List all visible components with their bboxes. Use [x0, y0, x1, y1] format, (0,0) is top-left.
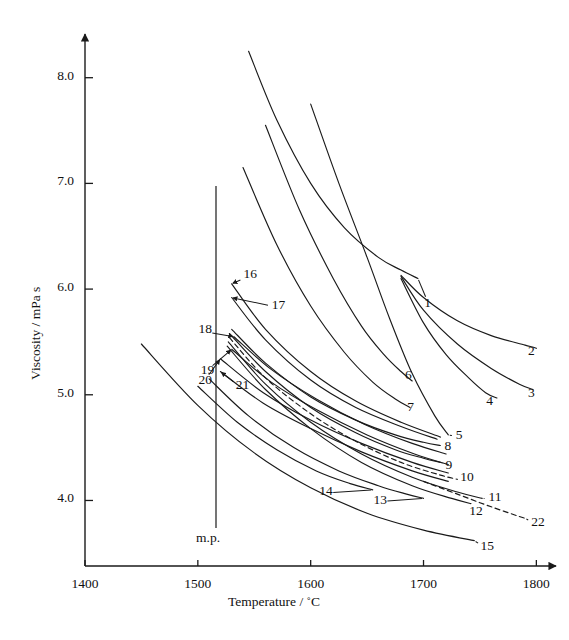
x-tick-label: 1600: [283, 576, 339, 592]
leader-17: [233, 298, 268, 305]
curve-label-13: 13: [373, 492, 387, 508]
leader-13: [387, 499, 422, 501]
curve-7: [243, 168, 410, 408]
curve-label-6: 6: [405, 367, 412, 383]
curve-label-1: 1: [424, 295, 431, 311]
curve-label-22: 22: [531, 514, 545, 530]
leader-15: [476, 542, 479, 544]
x-tick-label: 1700: [396, 576, 452, 592]
curve-label-17: 17: [272, 297, 286, 313]
curve-3: [401, 276, 533, 389]
curve-label-21: 21: [236, 377, 250, 393]
data-curves: [141, 51, 536, 540]
leader-22: [526, 519, 528, 520]
curve-6: [266, 125, 413, 381]
curve-19: [232, 349, 449, 464]
curve-label-9: 9: [446, 457, 453, 473]
curve-label-7: 7: [407, 399, 414, 415]
curve-label-11: 11: [488, 489, 501, 505]
curve-label-5: 5: [456, 427, 463, 443]
leader-14: [333, 490, 371, 493]
melting-point-label: m.p.: [196, 530, 220, 546]
curve-label-18: 18: [198, 321, 212, 337]
curve-label-4: 4: [486, 393, 493, 409]
y-axis-title: Viscosity / mPa s: [28, 287, 44, 380]
curve-label-2: 2: [528, 343, 535, 359]
viscosity-temperature-figure: Viscosity / mPa s Temperature / ˚C 14001…: [0, 0, 569, 640]
x-tick-label: 1800: [508, 576, 564, 592]
y-tick-label: 8.0: [30, 68, 74, 84]
x-tick-label: 1500: [170, 576, 226, 592]
leader-21: [222, 373, 234, 382]
leader-16: [233, 280, 240, 283]
curve-label-14: 14: [319, 483, 333, 499]
curve-label-8: 8: [444, 438, 451, 454]
curve-label-12: 12: [469, 503, 483, 519]
curve-18: [234, 337, 446, 454]
y-tick-label: 4.0: [30, 490, 74, 506]
axis-ticks: [85, 78, 536, 566]
curve-1: [249, 51, 418, 278]
curve-label-10: 10: [460, 469, 474, 485]
curve-label-16: 16: [244, 266, 258, 282]
curve-label-20: 20: [198, 372, 212, 388]
y-tick-label: 7.0: [30, 173, 74, 189]
curve-label-15: 15: [481, 538, 495, 554]
x-tick-label: 1400: [57, 576, 113, 592]
y-tick-label: 6.0: [30, 279, 74, 295]
curve-label-3: 3: [528, 385, 535, 401]
x-axis-title: Temperature / ˚C: [228, 594, 320, 610]
leader-19: [213, 350, 231, 365]
y-tick-label: 5.0: [30, 385, 74, 401]
curve-5: [311, 104, 449, 435]
